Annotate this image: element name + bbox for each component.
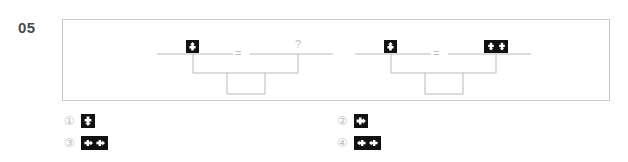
balance-scale-1: = ? [155,26,345,100]
option-3-tile [81,136,108,150]
balance-scale-2: = [353,26,543,100]
scale-1-left-pan-tile [186,40,199,53]
arrow-up-icon [385,41,396,52]
option-1-tile [81,114,95,128]
arrow-down-icon [497,41,507,52]
scale-2-left-pan-tile [384,40,397,53]
scale-1-unknown-marker: ? [295,38,301,50]
option-1-marker: ① [64,115,75,127]
arrow-up-icon [187,41,198,52]
balance-scale-2-drawing [353,26,543,100]
answer-option-4[interactable]: ④ [337,136,381,150]
answer-option-2[interactable]: ② [337,114,368,128]
arrow-right-icon [95,137,106,149]
answer-option-3[interactable]: ③ [64,136,108,150]
arrow-left-icon [368,137,379,149]
arrow-down-icon [486,41,496,52]
option-3-marker: ③ [64,137,75,149]
option-4-marker: ④ [337,137,348,149]
balance-scale-1-drawing [155,26,345,100]
arrow-down-icon [82,115,94,127]
question-number: 05 [18,19,36,36]
arrow-left-icon [356,137,367,149]
arrow-right-icon [83,137,94,149]
option-2-marker: ② [337,115,348,127]
scale-2-right-pan-tile [484,40,508,53]
scale-2-operator: = [433,47,439,59]
answer-option-1[interactable]: ① [64,114,95,128]
scale-1-operator: = [235,47,241,59]
option-4-tile [354,136,381,150]
stimulus-box: = ? = [62,19,610,101]
option-2-tile [354,114,368,128]
arrow-right-icon [355,115,367,127]
